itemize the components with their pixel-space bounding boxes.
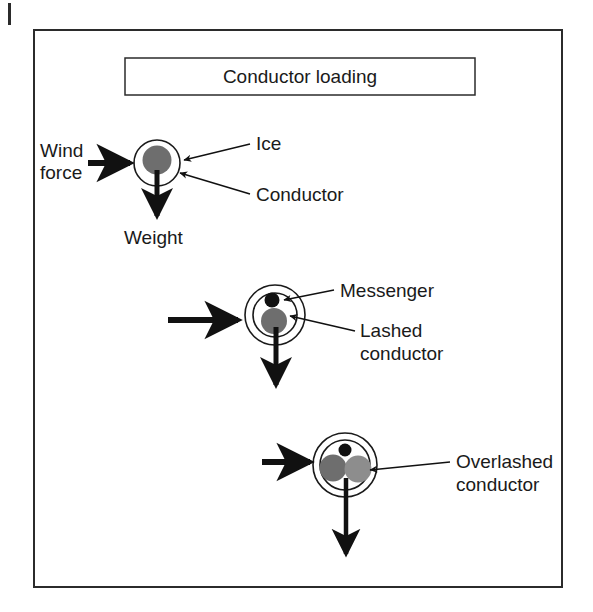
messenger-disc [339,444,352,457]
wind-force-label-line-2: force [40,162,82,183]
figure-root: Conductor loading Windforce Weight Ice C… [0,0,593,612]
wind-force-label-line-1: Wind [40,140,83,161]
lashed-conductor-label-line-2: conductor [360,343,444,364]
figure-title: Conductor loading [223,66,377,87]
weight-label: Weight [124,227,184,248]
messenger-disc [265,293,280,308]
lashed-conductor-label-line-1: Lashed [360,320,422,341]
overlashed-conductor-label-line-2: conductor [456,474,540,495]
wind-force-label: Windforce [40,140,83,183]
scan-edge-mark [8,3,11,25]
ice-label: Ice [256,133,281,154]
conductor-loading-figure: Conductor loading Windforce Weight Ice C… [0,0,593,612]
overlashed-conductor-label-line-1: Overlashed [456,451,553,472]
messenger-label: Messenger [340,280,435,301]
conductor-disc-right [345,456,372,483]
conductor-label: Conductor [256,184,344,205]
conductor-disc-left [320,455,347,482]
